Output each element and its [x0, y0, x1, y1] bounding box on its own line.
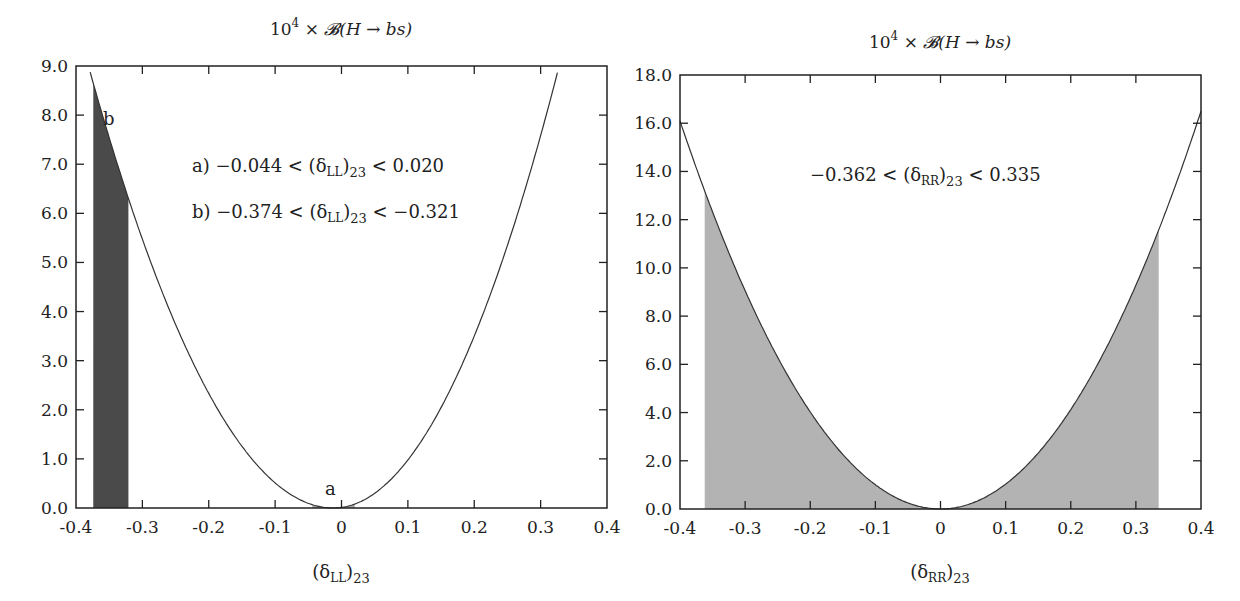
x-tick-label: 0.4	[593, 517, 620, 537]
x-tick-label: 0.4	[1187, 518, 1214, 538]
shaded-region-allowed	[705, 191, 1159, 509]
region-b-label: b	[103, 108, 115, 129]
shaded-region-b	[93, 83, 128, 508]
plot-title: 104 × 𝓑(H → bs)	[270, 16, 412, 39]
shaded-regions	[93, 83, 355, 508]
y-tick-label: 2.0	[41, 400, 68, 420]
annotation-a: a) −0.044 < (δLL)23 < 0.020	[192, 155, 444, 180]
x-tick-label: -0.3	[126, 517, 159, 537]
annotation-b: b) −0.374 < (δLL)23 < −0.321	[192, 201, 460, 226]
y-tick-label: 0.0	[41, 498, 68, 518]
figure-canvas: 104 × 𝓑(H → bs) -0.4-0.3-0.2-0.100.10.20…	[0, 0, 1240, 601]
y-tick-label: 4.0	[41, 302, 68, 322]
x-tick-label: -0.1	[259, 517, 292, 537]
x-tick-label: -0.1	[859, 518, 892, 538]
x-tick-label: -0.2	[192, 517, 225, 537]
x-tick-label: -0.4	[60, 517, 93, 537]
x-tick-label: 0.1	[394, 517, 421, 537]
branching-ratio-curve	[90, 72, 557, 508]
y-tick-label: 1.0	[41, 449, 68, 469]
x-tick-label: 0.3	[527, 517, 554, 537]
x-tick-label: 0.3	[1122, 518, 1149, 538]
y-tick-label: 16.0	[634, 113, 672, 133]
x-tick-label: 0.2	[1057, 518, 1084, 538]
y-tick-label: 14.0	[634, 161, 672, 181]
y-tick-label: 5.0	[41, 252, 68, 272]
y-tick-label: 4.0	[645, 403, 672, 423]
plot-delta-ll: 104 × 𝓑(H → bs) -0.4-0.3-0.2-0.100.10.20…	[41, 16, 621, 586]
y-tick-label: 18.0	[634, 65, 672, 85]
x-tick-label: 0.2	[461, 517, 488, 537]
x-tick-label: -0.4	[664, 518, 697, 538]
plot-title: 104 × 𝓑(H → bs)	[869, 29, 1011, 52]
y-tick-label: 2.0	[645, 451, 672, 471]
x-axis-label: (δLL)23	[312, 561, 369, 586]
shaded-regions	[705, 191, 1159, 509]
plot-delta-rr: 104 × 𝓑(H → bs) -0.4-0.3-0.2-0.100.10.20…	[634, 29, 1214, 586]
x-tick-label: -0.3	[729, 518, 762, 538]
x-tick-label: 0	[336, 517, 347, 537]
x-tick-label: -0.2	[794, 518, 827, 538]
y-tick-label: 3.0	[41, 351, 68, 371]
y-tick-label: 6.0	[645, 354, 672, 374]
y-tick-label: 12.0	[634, 210, 672, 230]
plot-frame	[76, 66, 607, 508]
annotation-range: −0.362 < (δRR)23 < 0.335	[810, 164, 1041, 189]
y-tick-label: 8.0	[645, 306, 672, 326]
x-tick-label: 0.1	[992, 518, 1019, 538]
x-axis-label: (δRR)23	[910, 561, 970, 586]
y-tick-label: 9.0	[41, 56, 68, 76]
region-a-label: a	[325, 478, 336, 499]
x-tick-label: 0	[935, 518, 946, 538]
y-tick-label: 0.0	[645, 499, 672, 519]
y-tick-label: 7.0	[41, 154, 68, 174]
y-tick-label: 8.0	[41, 105, 68, 125]
y-tick-label: 6.0	[41, 203, 68, 223]
y-tick-label: 10.0	[634, 258, 672, 278]
